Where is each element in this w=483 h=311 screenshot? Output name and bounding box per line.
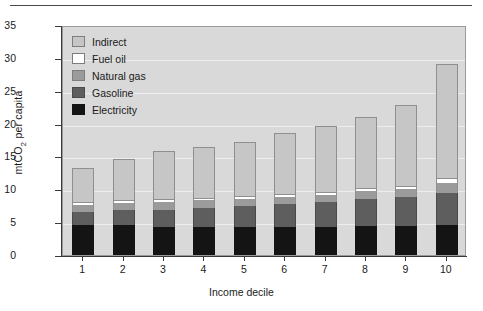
bar-segment-natural-gas [436, 183, 458, 193]
swatch-fuel-oil-icon [72, 53, 85, 64]
y-axis-tick-label: 30 [0, 53, 16, 63]
bar-segment-natural-gas [274, 197, 296, 204]
bar-segment-indirect [436, 64, 458, 179]
legend-item-label: Indirect [92, 36, 126, 48]
bar-segment-gasoline [72, 212, 94, 225]
bar-segment-gasoline [395, 197, 417, 226]
bar-segment-natural-gas [193, 200, 215, 207]
y-axis-tick-mark [55, 26, 61, 27]
bar-decile-7[interactable] [315, 126, 337, 255]
swatch-natural-gas-icon [72, 70, 85, 81]
x-axis-tick-label-5: 5 [224, 263, 264, 275]
bar-segment-indirect [234, 142, 256, 197]
bar-segment-gasoline [274, 204, 296, 227]
bar-segment-natural-gas [113, 203, 135, 210]
y-axis-tick-mark [55, 125, 61, 126]
bar-segment-electricity [315, 227, 337, 255]
y-axis: mtCO2 per capita 05101520253035 [0, 0, 62, 311]
bar-segment-fuel-oil [436, 179, 458, 182]
x-axis-tick-label-4: 4 [183, 263, 223, 275]
x-axis-tick-mark [244, 257, 245, 261]
bar-segment-fuel-oil [193, 199, 215, 201]
bar-segment-electricity [72, 225, 94, 255]
bar-segment-electricity [113, 225, 135, 255]
x-axis-tick-mark [123, 257, 124, 261]
x-axis-tick-mark [365, 257, 366, 261]
bar-segment-electricity [274, 227, 296, 255]
bar-decile-4[interactable] [193, 147, 215, 255]
bar-segment-gasoline [113, 210, 135, 225]
bar-segment-electricity [153, 227, 175, 255]
y-axis-tick-label: 10 [0, 184, 16, 194]
legend-item-indirect[interactable]: Indirect [72, 33, 202, 50]
bar-decile-9[interactable] [395, 105, 417, 255]
y-axis-tick-mark [55, 223, 61, 224]
bar-segment-fuel-oil [315, 193, 337, 195]
bar-segment-natural-gas [234, 199, 256, 206]
bar-segment-electricity [234, 227, 256, 255]
x-axis-title: Income decile [0, 286, 483, 298]
x-axis-tick-mark [325, 257, 326, 261]
x-axis-tick-label-6: 6 [264, 263, 304, 275]
bar-segment-gasoline [193, 208, 215, 227]
bar-decile-3[interactable] [153, 151, 175, 255]
bar-segment-gasoline [153, 210, 175, 227]
bar-segment-indirect [274, 133, 296, 194]
bar-segment-indirect [315, 126, 337, 192]
x-axis-tick-label-3: 3 [143, 263, 183, 275]
bar-segment-fuel-oil [234, 197, 256, 199]
bar-segment-gasoline [315, 202, 337, 227]
bar-segment-natural-gas [315, 195, 337, 202]
bar-segment-indirect [153, 151, 175, 200]
bar-segment-gasoline [355, 199, 377, 226]
y-axis-tick-label: 0 [0, 250, 16, 260]
bar-segment-natural-gas [72, 205, 94, 212]
swatch-gasoline-icon [72, 87, 85, 98]
bar-decile-10[interactable] [436, 64, 458, 255]
legend-item-label: Electricity [92, 104, 137, 116]
y-axis-tick-label: 35 [0, 20, 16, 30]
legend-item-electricity[interactable]: Electricity [72, 101, 202, 118]
x-axis-tick-label-8: 8 [345, 263, 385, 275]
bar-segment-indirect [193, 147, 215, 199]
x-axis-tick-label-1: 1 [62, 263, 102, 275]
bar-segment-fuel-oil [153, 200, 175, 202]
y-axis-tick-mark [55, 92, 61, 93]
chart-legend: IndirectFuel oilNatural gasGasolineElect… [72, 33, 202, 118]
x-axis-tick-label-9: 9 [385, 263, 425, 275]
legend-item-label: Gasoline [92, 87, 133, 99]
bar-segment-indirect [72, 168, 94, 203]
bar-segment-indirect [355, 117, 377, 189]
x-axis-tick-label-10: 10 [426, 263, 466, 275]
swatch-indirect-icon [72, 36, 85, 47]
header-rule [10, 5, 472, 6]
y-axis-tick-label: 20 [0, 119, 16, 129]
bar-decile-2[interactable] [113, 159, 135, 255]
bar-segment-indirect [113, 159, 135, 201]
bar-segment-indirect [395, 105, 417, 186]
bar-segment-natural-gas [395, 189, 417, 197]
bar-decile-6[interactable] [274, 133, 296, 255]
bar-decile-1[interactable] [72, 168, 94, 255]
bar-segment-gasoline [436, 193, 458, 226]
bar-segment-electricity [436, 225, 458, 255]
bar-segment-natural-gas [355, 191, 377, 199]
x-axis-tick-mark [405, 257, 406, 261]
bar-segment-fuel-oil [355, 189, 377, 191]
bar-decile-8[interactable] [355, 117, 377, 255]
bar-decile-5[interactable] [234, 142, 256, 255]
x-axis-tick-mark [284, 257, 285, 261]
x-axis-tick-label-7: 7 [305, 263, 345, 275]
x-axis-tick-mark [203, 257, 204, 261]
legend-item-label: Fuel oil [92, 53, 126, 65]
legend-item-gasoline[interactable]: Gasoline [72, 84, 202, 101]
bar-segment-natural-gas [153, 202, 175, 209]
bar-segment-fuel-oil [72, 203, 94, 205]
x-axis-tick-mark [446, 257, 447, 261]
legend-item-fuel-oil[interactable]: Fuel oil [72, 50, 202, 67]
x-axis-tick-mark [82, 257, 83, 261]
y-axis-tick-label: 15 [0, 151, 16, 161]
legend-item-natural-gas[interactable]: Natural gas [72, 67, 202, 84]
bar-segment-electricity [193, 227, 215, 255]
y-axis-tick-label: 5 [0, 217, 16, 227]
